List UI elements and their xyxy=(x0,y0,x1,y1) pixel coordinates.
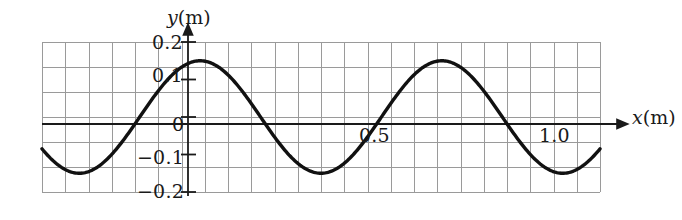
y-tick-label-0: 0 xyxy=(172,113,184,135)
y-axis-title: y(m) xyxy=(167,6,211,28)
x-axis-title-variable: x xyxy=(632,106,643,128)
y-axis-title-unit: (m) xyxy=(178,6,211,28)
y-tick-label-0.1: 0.1 xyxy=(152,64,183,86)
y-axis-title-variable: y xyxy=(167,6,178,28)
x-axis-title: x(m) xyxy=(632,106,676,128)
x-axis-title-unit: (m) xyxy=(643,106,676,128)
plot-canvas xyxy=(0,0,682,220)
x-tick-label-1.0: 1.0 xyxy=(539,124,570,146)
y-tick-label-0.2: 0.2 xyxy=(152,31,183,53)
y-tick-label-minus-0.1: −0.1 xyxy=(137,146,184,168)
x-tick-label-0.5: 0.5 xyxy=(359,124,390,146)
y-tick-label-minus-0.2: −0.2 xyxy=(137,180,184,202)
wave-graph-figure: 0.2 0.1 0 −0.1 −0.2 0.5 1.0 y(m) x(m) xyxy=(0,0,682,220)
